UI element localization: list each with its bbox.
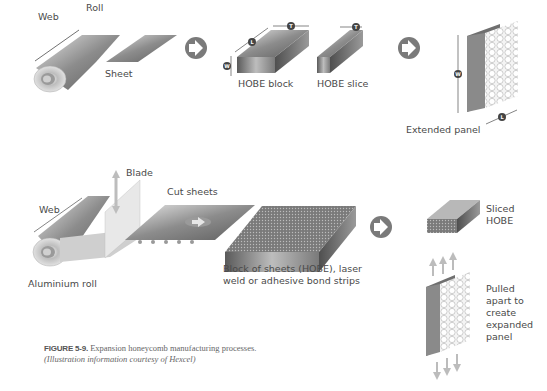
block-of-sheets-label: Block of sheets (HOBE), laser weld or ad… bbox=[223, 263, 383, 287]
figure-number: FIGURE 5-9. bbox=[44, 344, 88, 353]
aluminium-roll-label: Aluminium roll bbox=[28, 278, 97, 290]
cut-sheets-label: Cut sheets bbox=[167, 186, 218, 198]
hobe-block-label: HOBE block bbox=[238, 78, 293, 90]
web-label: Web bbox=[38, 11, 59, 23]
hobe-block-illustration bbox=[237, 30, 309, 73]
pull-down-arrows-icon bbox=[433, 354, 461, 380]
blade-label: Blade bbox=[126, 167, 153, 179]
pulled-apart-label: Pulled apart to create expanded panel bbox=[486, 283, 541, 343]
extended-panel-illustration bbox=[467, 21, 518, 112]
process-arrow-icon bbox=[398, 37, 420, 59]
sheet-illustration bbox=[106, 35, 177, 62]
svg-text:T: T bbox=[354, 24, 358, 30]
sliced-hobe-illustration bbox=[427, 200, 480, 233]
figure-caption: FIGURE 5-9. Expansion honeycomb manufact… bbox=[44, 343, 256, 365]
roll-label: Roll bbox=[86, 2, 103, 14]
pull-up-arrows-icon bbox=[429, 252, 457, 276]
figure-credit: (Illustration information courtesy of He… bbox=[44, 354, 256, 365]
extended-panel-label: Extended panel bbox=[406, 124, 481, 136]
diagram-artwork: L T W T W L bbox=[0, 0, 547, 391]
figure-caption-text: Expansion honeycomb manufacturing proces… bbox=[90, 343, 256, 353]
svg-text:W: W bbox=[455, 71, 461, 77]
sheet-label: Sheet bbox=[105, 68, 132, 80]
svg-text:T: T bbox=[289, 23, 293, 29]
svg-text:W: W bbox=[224, 63, 230, 69]
sliced-hobe-label: Sliced HOBE bbox=[486, 203, 526, 227]
expanded-panel-illustration bbox=[426, 272, 470, 356]
web-label-bottom: Web bbox=[39, 204, 60, 216]
process-arrow-icon bbox=[370, 216, 392, 238]
process-arrow-icon bbox=[185, 37, 207, 59]
cut-sheets-illustration bbox=[125, 205, 255, 244]
hobe-slice-label: HOBE slice bbox=[317, 78, 368, 90]
roll-illustration bbox=[34, 35, 120, 92]
hobe-slice-illustration bbox=[317, 30, 363, 73]
